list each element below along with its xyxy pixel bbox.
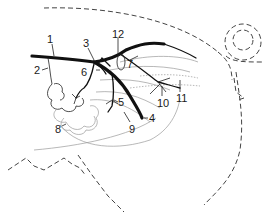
label-9: 9 — [129, 123, 135, 135]
label-8: 8 — [55, 123, 61, 135]
label-6: 6 — [81, 66, 87, 78]
anatomical-diagram: 1 2 3 4 5 6 7 8 9 10 11 12 — [0, 0, 267, 220]
label-10: 10 — [157, 97, 169, 109]
label-2: 2 — [34, 64, 40, 76]
head-outline — [8, 8, 242, 212]
label-12: 12 — [112, 28, 124, 40]
ear-outline — [225, 24, 262, 100]
label-11: 11 — [176, 92, 187, 104]
label-1: 1 — [47, 33, 53, 45]
label-5: 5 — [118, 96, 124, 108]
label-3: 3 — [83, 37, 89, 49]
label-7: 7 — [127, 58, 133, 70]
label-4: 4 — [149, 112, 155, 124]
